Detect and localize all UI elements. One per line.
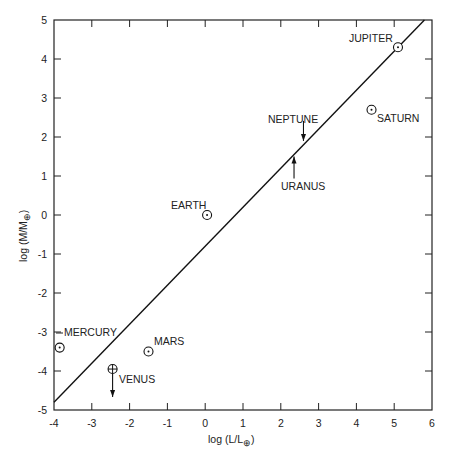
fit-line <box>54 20 424 402</box>
x-tick-label: 3 <box>316 417 322 429</box>
x-tick-label: 0 <box>202 417 208 429</box>
label-saturn: SATURN <box>377 112 419 124</box>
scatter-chart: -4-3-2-10123456 543210-1-2-3-4-5 MERCURY… <box>0 0 451 462</box>
y-tick-label: 3 <box>41 92 47 104</box>
y-tick-label: 1 <box>41 170 47 182</box>
label-mercury: MERCURY <box>64 326 117 338</box>
y-tick-label: 4 <box>41 53 47 65</box>
label-jupiter: JUPITER <box>349 32 393 44</box>
x-tick-label: 4 <box>353 417 359 429</box>
x-tick-label: 5 <box>391 417 397 429</box>
y-tick-label: -1 <box>38 248 47 260</box>
y-tick-label: -3 <box>38 326 47 338</box>
y-tick-label: 2 <box>41 131 47 143</box>
y-tick-label: -4 <box>38 365 47 377</box>
x-axis-ticks: -4-3-2-10123456 <box>49 20 435 429</box>
label-neptune: NEPTUNE <box>268 113 318 125</box>
x-tick-label: -2 <box>125 417 134 429</box>
x-tick-label: -3 <box>87 417 96 429</box>
label-uranus: URANUS <box>281 180 325 192</box>
y-tick-label: 5 <box>41 14 47 26</box>
x-tick-label: 6 <box>429 417 435 429</box>
x-axis-title: log (L/L⊕) <box>208 433 255 448</box>
label-mars: MARS <box>154 335 184 347</box>
x-tick-label: -1 <box>163 417 172 429</box>
y-axis-title: log (M/M⊕) <box>17 210 32 262</box>
x-tick-label: -4 <box>49 417 58 429</box>
y-tick-label: -5 <box>38 404 47 416</box>
y-tick-label: 0 <box>41 209 47 221</box>
x-tick-label: 2 <box>278 417 284 429</box>
label-venus: VENUS <box>119 373 155 385</box>
x-tick-label: 1 <box>240 417 246 429</box>
plot-frame <box>54 20 432 410</box>
y-tick-label: -2 <box>38 287 47 299</box>
label-earth: EARTH <box>171 199 206 211</box>
